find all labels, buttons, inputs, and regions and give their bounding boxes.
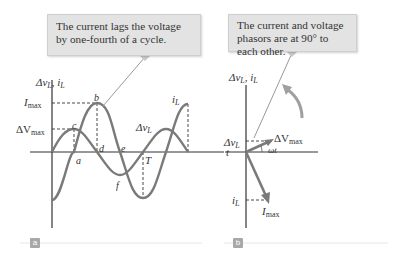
phasor-dvmax-label: ΔVmax — [274, 133, 303, 147]
curve-v-base: Δv — [136, 121, 147, 133]
imax-sub: max — [28, 101, 42, 110]
phasor-imax-label: Imax — [262, 206, 279, 220]
current-phasor-arrowhead — [261, 192, 270, 204]
point-b: b — [94, 92, 99, 103]
panel-a-y-axis-label: ΔvL, iL — [36, 77, 65, 91]
callout-b-leader — [254, 53, 292, 138]
dvmax-label: ΔVmax — [16, 124, 45, 138]
rotation-arrow — [288, 90, 302, 118]
point-c: c — [72, 120, 76, 131]
voltage-phasor — [246, 142, 268, 152]
phasor-i-sub: L — [235, 199, 239, 208]
phasor-dvmax-base: ΔV — [274, 132, 289, 144]
panel-a-tag: a — [30, 238, 40, 248]
curve-i-sub: L — [175, 98, 179, 107]
point-T: T — [145, 155, 151, 166]
omega-t-label: ωt — [268, 145, 277, 156]
callout-a-leader — [103, 57, 145, 106]
phasor-dvmax-sub: max — [289, 137, 303, 146]
callout-b-pointer — [287, 52, 297, 57]
panel-b-y-axis-label: ΔvL, iL — [229, 72, 258, 86]
curve-i-label: iL — [172, 94, 180, 108]
point-f: f — [116, 180, 119, 191]
point-d: d — [99, 143, 104, 154]
point-a: a — [76, 155, 81, 166]
dvmax-base: ΔV — [16, 123, 31, 135]
current-phasor — [246, 152, 266, 196]
callout-panel-a: The current lags the voltage by one-four… — [47, 14, 201, 56]
panel-b-tag: b — [233, 238, 243, 248]
point-e: e — [121, 143, 125, 154]
angle-arc — [261, 146, 262, 152]
phasor-dv-base: Δv — [224, 136, 235, 148]
imax-label: Imax — [24, 97, 41, 111]
curve-v-label: ΔvL — [136, 122, 152, 136]
phasor-imax-sub: max — [266, 210, 280, 219]
callout-a-pointer — [140, 56, 150, 61]
phasor-dv-label: ΔvL — [224, 137, 240, 151]
phasor-dv-sub: L — [235, 141, 239, 150]
phasor-i-label: iL — [232, 195, 240, 209]
y-label-dv: Δv — [36, 76, 47, 88]
callout-panel-b: The current and voltage phasors are at 9… — [228, 14, 357, 52]
y-label-i-sub: L — [253, 76, 257, 85]
y-label-i-sub: L — [60, 81, 64, 90]
y-label-dv: Δv — [229, 71, 240, 83]
dvmax-sub: max — [31, 128, 45, 137]
curve-v-sub: L — [147, 126, 151, 135]
